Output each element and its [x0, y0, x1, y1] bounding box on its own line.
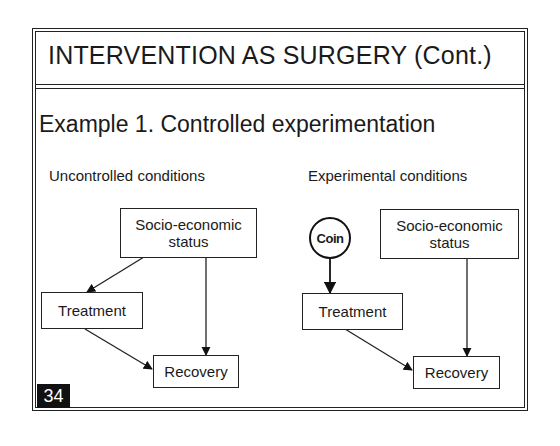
node-ses-right: Socio-economic status [380, 209, 519, 259]
node-recovery-left: Recovery [153, 355, 239, 388]
node-ses-left: Socio-economic status [120, 208, 257, 258]
node-treatment-right: Treatment [302, 293, 403, 330]
node-ses-left-line2: status [135, 233, 242, 250]
edge-ses-to-treatment-left [87, 257, 144, 292]
page-number-badge: 34 [37, 384, 70, 408]
node-treatment-left-label: Treatment [58, 302, 126, 319]
edge-treatment-to-recovery-right [345, 329, 412, 370]
edge-treatment-to-recovery-left [85, 329, 152, 369]
node-recovery-right: Recovery [413, 356, 500, 389]
node-ses-right-line1: Socio-economic [396, 217, 503, 234]
node-treatment-left: Treatment [41, 292, 143, 329]
node-coin-label: Coin [317, 231, 344, 246]
node-coin: Coin [309, 217, 351, 259]
node-ses-left-line1: Socio-economic [135, 216, 242, 233]
node-ses-right-line2: status [396, 234, 503, 251]
node-recovery-right-label: Recovery [425, 364, 488, 381]
node-treatment-right-label: Treatment [319, 303, 387, 320]
node-recovery-left-label: Recovery [164, 363, 227, 380]
